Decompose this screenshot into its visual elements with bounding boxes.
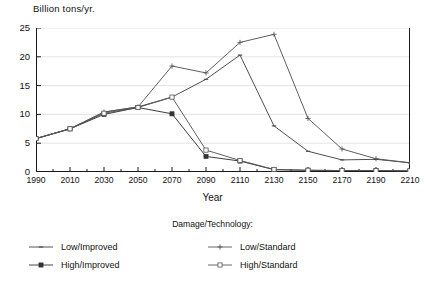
legend-marker-open-square-icon (207, 260, 233, 270)
y-tick-label: 15 (4, 81, 30, 91)
data-point-marker (170, 112, 174, 116)
data-point-marker (306, 168, 310, 172)
legend-label: High/Improved (61, 260, 120, 270)
data-point-marker (136, 105, 140, 109)
legend-item-high-improved[interactable]: High/Improved (28, 258, 120, 270)
y-tick-label: 25 (4, 23, 30, 33)
series-low-improved (36, 55, 410, 163)
legend-swatch (28, 260, 54, 270)
legend-title: Damage/Technology: (0, 219, 425, 229)
series-high-standard (36, 95, 410, 172)
y-tick-label: 20 (4, 52, 30, 62)
data-point-marker (39, 263, 43, 267)
legend-label: Low/Standard (240, 242, 296, 252)
legend-label: High/Standard (240, 260, 298, 270)
data-point-marker (102, 111, 106, 115)
legend-swatch (207, 242, 233, 252)
series-line (36, 107, 410, 170)
series-low-standard (36, 32, 410, 166)
y-tick-label: 10 (4, 109, 30, 119)
legend-item-low-improved[interactable]: Low/Improved (28, 240, 118, 252)
legend-marker-plus-icon (207, 242, 233, 252)
x-axis-title: Year (0, 192, 425, 203)
data-point-marker (204, 154, 208, 158)
data-point-marker (408, 169, 410, 172)
data-point-marker (238, 158, 242, 162)
series-high-improved (36, 105, 410, 172)
chart-figure: Billion tons/yr. 0510152025 199020102030… (0, 0, 425, 293)
data-point-marker (170, 95, 174, 99)
legend-item-high-standard[interactable]: High/Standard (207, 258, 298, 270)
legend-marker-dash-icon (28, 242, 54, 252)
data-point-marker (204, 148, 208, 152)
x-tick-label: 2210 (390, 176, 425, 185)
data-point-marker (272, 167, 276, 171)
series-line (36, 55, 410, 163)
plot-area (36, 28, 410, 172)
legend-swatch (207, 260, 233, 270)
legend-item-low-standard[interactable]: Low/Standard (207, 240, 296, 252)
data-point-marker (36, 136, 38, 140)
y-axis-title: Billion tons/yr. (33, 3, 95, 14)
y-tick-label: 5 (4, 138, 30, 148)
data-point-marker (68, 127, 72, 131)
data-point-marker (340, 168, 344, 172)
data-point-marker (374, 168, 378, 172)
legend-label: Low/Improved (61, 242, 118, 252)
plot-svg (36, 28, 410, 172)
legend-swatch (28, 242, 54, 252)
legend-marker-filled-square-icon (28, 260, 54, 270)
data-point-marker (218, 263, 222, 267)
